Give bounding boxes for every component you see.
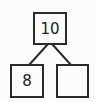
whole-box: 10: [33, 12, 67, 45]
part-box-right[interactable]: [56, 64, 89, 98]
part-left-value: 8: [22, 72, 32, 90]
part-box-left: 8: [10, 64, 44, 98]
connector-right: [52, 44, 71, 65]
connector-left: [29, 44, 48, 65]
whole-value: 10: [40, 20, 59, 38]
